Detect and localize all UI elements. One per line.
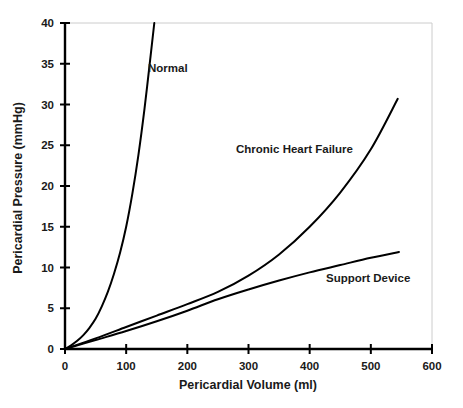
y-tick-label: 5 bbox=[48, 302, 55, 314]
x-tick-label: 200 bbox=[178, 360, 197, 372]
series-label: Normal bbox=[148, 62, 188, 74]
pericardial-pressure-volume-chart: 0510152025303540 0100200300400500600 Nor… bbox=[0, 0, 463, 408]
x-tick-label: 0 bbox=[62, 360, 68, 372]
series-curve bbox=[65, 252, 399, 349]
series-label: Chronic Heart Failure bbox=[236, 143, 353, 155]
x-axis-title: Pericardial Volume (ml) bbox=[179, 378, 317, 392]
series-curve bbox=[65, 99, 398, 349]
data-series-group bbox=[65, 23, 399, 349]
x-tick-label: 300 bbox=[239, 360, 258, 372]
plot-frame-border bbox=[65, 23, 432, 349]
y-tick-label: 10 bbox=[41, 262, 54, 274]
y-axis-title: Pericardial Pressure (mmHg) bbox=[11, 102, 25, 274]
y-tick-label: 25 bbox=[41, 139, 54, 151]
x-tick-label: 600 bbox=[422, 360, 441, 372]
y-tick-label: 35 bbox=[41, 58, 54, 70]
y-tick-label: 20 bbox=[41, 180, 54, 192]
axes bbox=[65, 23, 432, 349]
y-tick-label: 0 bbox=[48, 343, 54, 355]
x-tick-label: 100 bbox=[117, 360, 136, 372]
plot-frame bbox=[65, 23, 432, 349]
series-annotation-group: NormalChronic Heart FailureSupport Devic… bbox=[148, 62, 410, 284]
series-label: Support Device bbox=[326, 272, 410, 284]
series-curve bbox=[65, 23, 154, 349]
y-tick-label: 30 bbox=[41, 99, 54, 111]
y-tick-label: 15 bbox=[41, 221, 54, 233]
x-tick-label: 400 bbox=[300, 360, 319, 372]
chart-canvas: 0510152025303540 0100200300400500600 Nor… bbox=[0, 0, 463, 408]
x-axis-tick-labels: 0100200300400500600 bbox=[62, 360, 442, 372]
y-tick-label: 40 bbox=[41, 17, 54, 29]
y-axis-tick-labels: 0510152025303540 bbox=[41, 17, 54, 355]
x-tick-label: 500 bbox=[361, 360, 380, 372]
